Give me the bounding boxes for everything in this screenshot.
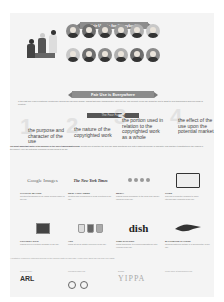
arl-logo: ARL (20, 275, 34, 282)
avatar-icon (82, 48, 96, 62)
person-icon (38, 33, 46, 53)
case-dish: dish TIME-SHIFTINGUsing technology to re… (116, 218, 161, 249)
cc-license-icon (68, 275, 88, 293)
avatar-icon (114, 48, 128, 62)
person-icon (27, 39, 35, 58)
factor-3: 3the portion used in relation to the cop… (122, 118, 166, 140)
avatar-icon (146, 48, 160, 62)
case-code: CODECopying a computer program to make i… (165, 170, 210, 201)
people-group-illustration (15, 22, 60, 58)
footnote: * Illustrative examples; outcomes depend… (10, 257, 204, 260)
person-icon (49, 30, 57, 53)
sponsor-arl: Developed by ARL (20, 270, 34, 282)
avatar-icon (98, 48, 112, 62)
avatar-grid (66, 24, 198, 72)
avatar-icon (114, 24, 128, 38)
ravens-logo-icon (165, 218, 210, 238)
case-ravens: BALTIMORE RAVENSShowing historical foota… (165, 218, 210, 249)
avatar-icon (66, 48, 80, 62)
avatar-icon (130, 24, 144, 38)
factor-2: 2the nature of the copyrighted work (74, 127, 118, 138)
summary-paragraph: The most important factor is the purpose… (10, 145, 204, 151)
avatar-icon (130, 48, 144, 62)
sponsor-yippa: Design YIPPA (118, 270, 145, 283)
case-media: MEDIAMaking works accessible to the blin… (116, 170, 161, 201)
sponsor-info: Learn more at fairuseweek.org (165, 270, 205, 272)
case-google: Google Images GOOGLE IMAGESCreating thum… (20, 170, 65, 201)
case-protest: PROTEST SIGNMaking fun of a political me… (20, 218, 65, 246)
avatar-icon (82, 24, 96, 38)
monitor-icon (165, 170, 210, 190)
protest-sign-icon (20, 218, 65, 238)
factor-4: 4the effect of the use upon the potentia… (178, 118, 214, 135)
avatar-icon (98, 24, 112, 38)
dish-logo: dish (116, 218, 161, 238)
avatar-icon (146, 24, 160, 38)
avatar-icon (66, 24, 80, 38)
sponsor-cc: Licensed under CC (68, 270, 88, 293)
yippa-logo: YIPPA (118, 274, 145, 283)
nyt-logo: The New York Times (68, 170, 113, 190)
section-title: Fair Use is Everywhere (91, 92, 135, 97)
everywhere-ribbon: Fair Use is Everywhere (72, 91, 154, 98)
google-images-logo: Google Images (20, 170, 65, 190)
paint-jars-icon (68, 218, 113, 238)
case-art: ARTUsing art as an artistic reference is… (68, 218, 113, 246)
circles-icon (116, 170, 161, 190)
case-nyt: The New York Times NEW YORK TIMESQuoting… (68, 170, 113, 201)
